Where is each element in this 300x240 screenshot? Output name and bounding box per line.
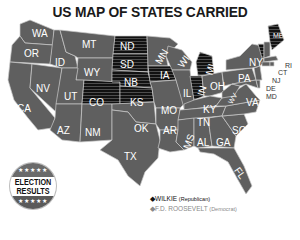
label-NB: NB: [124, 77, 138, 88]
label-AZ: AZ: [57, 125, 70, 136]
state-NH[interactable]: [264, 42, 270, 58]
label-ND: ND: [120, 41, 134, 52]
legend-candidate: F.D. ROOSEVELT: [155, 205, 208, 212]
label-LA: LA: [164, 149, 179, 165]
legend-candidate: WILKIE: [155, 195, 177, 202]
label-OR: OR: [24, 48, 39, 59]
label-KS: KS: [130, 97, 144, 108]
label-UT: UT: [64, 91, 77, 102]
label-TX: TX: [124, 151, 137, 162]
legend-item-roosevelt: ◆F.D. ROOSEVELT (Democrat): [150, 204, 237, 214]
label-CO: CO: [89, 97, 104, 108]
label-NJ: NJ: [272, 77, 281, 84]
label-VA: VA: [246, 97, 259, 108]
label-AR: AR: [163, 125, 177, 136]
label-CT: CT: [278, 69, 288, 76]
label-NY: NY: [249, 57, 263, 68]
legend-party: (Democrat): [209, 206, 237, 212]
label-SC: SC: [232, 125, 246, 136]
election-results-badge: ★★★★★ ELECTION RESULTS ★★★★★: [10, 163, 56, 209]
label-RI: RI: [285, 62, 292, 69]
label-WA: WA: [32, 28, 48, 39]
legend-party: (Republican): [179, 196, 210, 202]
label-OK: OK: [134, 123, 149, 134]
label-IA: IA: [160, 70, 170, 81]
legend-item-wilkie: ◆WILKIE (Republican): [150, 194, 237, 204]
badge-line-2: RESULTS: [13, 187, 52, 196]
label-MO: MO: [161, 105, 177, 116]
badge-stars-bottom: ★★★★★: [10, 196, 56, 209]
label-MT: MT: [82, 39, 96, 50]
badge-text: ELECTION RESULTS: [13, 177, 52, 197]
badge-stars-top: ★★★★★: [10, 163, 56, 177]
label-PA: PA: [238, 73, 251, 84]
label-AL: AL: [197, 137, 210, 148]
state-RI[interactable]: [270, 62, 274, 66]
label-ID: ID: [55, 57, 65, 68]
label-GA: GA: [216, 137, 231, 148]
label-WY: WY: [84, 67, 100, 78]
label-TN: TN: [197, 117, 210, 128]
label-ME: ME: [273, 32, 284, 39]
label-SD: SD: [120, 59, 134, 70]
label-CA: CA: [17, 103, 31, 114]
label-KY: KY: [203, 104, 217, 115]
label-NM: NM: [85, 127, 101, 138]
label-NV: NV: [36, 83, 50, 94]
label-DE: DE: [266, 85, 276, 92]
legend: ◆WILKIE (Republican) ◆F.D. ROOSEVELT (De…: [150, 194, 237, 214]
state-CT[interactable]: [262, 62, 270, 66]
label-OH: OH: [210, 81, 225, 92]
label-IL: IL: [183, 88, 192, 99]
label-MD: MD: [266, 93, 277, 100]
